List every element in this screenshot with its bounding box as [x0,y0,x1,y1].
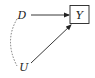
edge-u-y-arrow [31,25,71,63]
node-d-label: D [17,9,27,22]
edge-d-u-dashed [11,19,18,66]
node-u-label: U [19,61,29,74]
causal-diagram: D Y U [0,0,95,78]
